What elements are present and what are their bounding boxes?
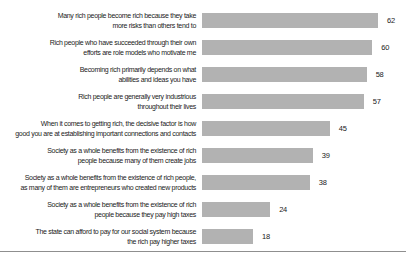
category-label-line1: Rich people who have succeeded through t… [0, 38, 196, 48]
category-label-line1: When it comes to getting rich, the decis… [0, 119, 196, 129]
category-label-line1: The state can afford to pay for our soci… [0, 227, 196, 237]
bar-track: 39 [202, 148, 406, 163]
value-label: 58 [376, 70, 384, 79]
category-label-line2: good you are at establishing important c… [0, 129, 196, 139]
bar [202, 202, 270, 217]
category-label-line2: throughout their lives [0, 102, 196, 112]
category-label-line2: people because they pay high taxes [0, 210, 196, 220]
bottom-divider [0, 251, 406, 252]
bar-track: 45 [202, 121, 406, 136]
category-label-line1: Becoming rich primarily depends on what [0, 65, 196, 75]
bar [202, 94, 364, 109]
bar-track: 62 [202, 13, 406, 28]
category-label-line2: more risks than others tend to [0, 21, 196, 31]
category-label-line2: abilities and ideas you have [0, 75, 196, 85]
bar [202, 40, 372, 55]
category-label-line1: Society as a whole benefits from the exi… [0, 173, 196, 183]
bar [202, 229, 253, 244]
bar-row: Rich people who have succeeded through t… [0, 34, 406, 61]
category-label-line2: efforts are role models who motivate me [0, 48, 196, 58]
bar [202, 13, 378, 28]
value-label: 18 [262, 232, 270, 241]
value-label: 38 [319, 178, 327, 187]
category-label: Rich people who have succeeded through t… [0, 38, 202, 57]
category-label: Rich people are generally very industrio… [0, 92, 202, 111]
category-label-line1: Many rich people become rich because the… [0, 11, 196, 21]
bar-row: The state can afford to pay for our soci… [0, 223, 406, 250]
bar-row: Society as a whole benefits from the exi… [0, 169, 406, 196]
value-label: 24 [279, 205, 287, 214]
category-label: Many rich people become rich because the… [0, 11, 202, 30]
category-label-line1: Rich people are generally very industrio… [0, 92, 196, 102]
bar-track: 24 [202, 202, 406, 217]
category-label: Society as a whole benefits from the exi… [0, 146, 202, 165]
bar-track: 60 [202, 40, 406, 55]
value-label: 62 [387, 16, 395, 25]
bar-track: 18 [202, 229, 406, 244]
category-label: When it comes to getting rich, the decis… [0, 119, 202, 138]
bar-row: Becoming rich primarily depends on what … [0, 61, 406, 88]
value-label: 45 [339, 124, 347, 133]
bar-row: When it comes to getting rich, the decis… [0, 115, 406, 142]
category-label: Becoming rich primarily depends on what … [0, 65, 202, 84]
bar [202, 175, 310, 190]
category-label-line1: Society as a whole benefits from the exi… [0, 146, 196, 156]
bar-chart: Many rich people become rich because the… [0, 0, 406, 265]
value-label: 60 [381, 43, 389, 52]
bar-row: Society as a whole benefits from the exi… [0, 142, 406, 169]
bar-row: Rich people are generally very industrio… [0, 88, 406, 115]
bar-track: 38 [202, 175, 406, 190]
bar-row: Society as a whole benefits from the exi… [0, 196, 406, 223]
bar [202, 148, 313, 163]
category-label-line2: as many of them are entrepreneurs who cr… [0, 183, 196, 193]
value-label: 39 [322, 151, 330, 160]
category-label: Society as a whole benefits from the exi… [0, 173, 202, 192]
category-label: Society as a whole benefits from the exi… [0, 200, 202, 219]
category-label-line1: Society as a whole benefits from the exi… [0, 200, 196, 210]
category-label-line2: the rich pay higher taxes [0, 237, 196, 247]
value-label: 57 [373, 97, 381, 106]
category-label-line2: people because many of them create jobs [0, 156, 196, 166]
bar-track: 57 [202, 94, 406, 109]
bar [202, 121, 330, 136]
bar-track: 58 [202, 67, 406, 82]
bar [202, 67, 367, 82]
bar-row: Many rich people become rich because the… [0, 7, 406, 34]
category-label: The state can afford to pay for our soci… [0, 227, 202, 246]
